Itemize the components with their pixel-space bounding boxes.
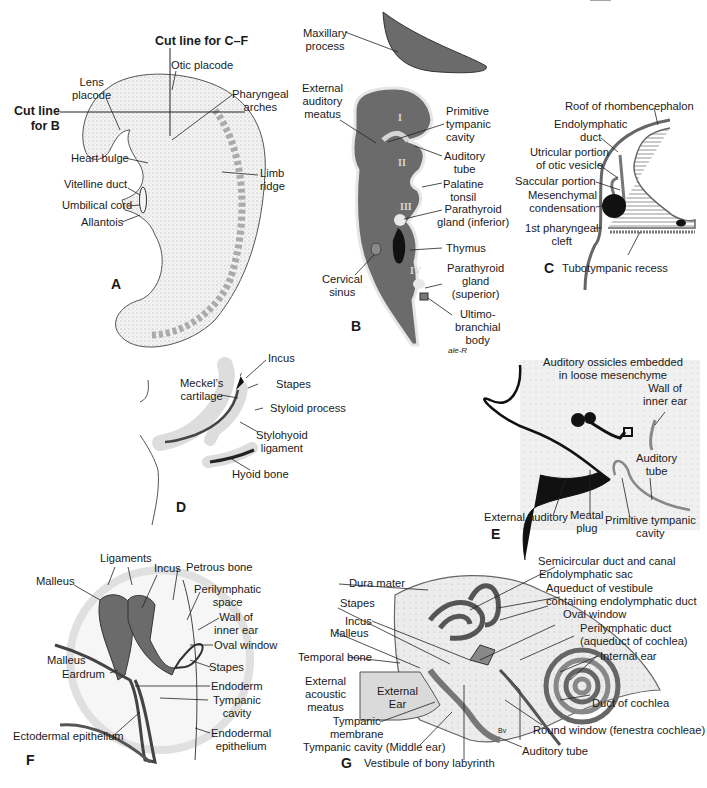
parathyroid-inferior-label: Parathyroid gland (inferior) (437, 203, 509, 229)
tympanic-membrane-label: Tympanic membrane (330, 715, 383, 741)
panel-d-letter: D (176, 499, 186, 515)
auditory-ossicles-label: Auditory ossicles embedded in loose mese… (543, 356, 683, 382)
cervical-sinus-label: Cervical sinus (322, 273, 362, 299)
ectodermal-epithelium-label: Ectodermal epithelium (13, 730, 124, 743)
cut-line-c-f-label: Cut line for C–F (155, 34, 248, 49)
arch-iv-numeral: IV (410, 265, 421, 276)
primitive-tympanic-cavity-label: Primitive tympanic cavity (446, 105, 491, 144)
meckels-cartilage-label: Meckel’s cartilage (180, 377, 223, 403)
duct-of-cochlea-label: Duct of cochlea (592, 697, 669, 710)
utricular-portion-label: Utricular portion of otic vesicle (530, 146, 609, 172)
endoderm-label: Endoderm (211, 680, 263, 693)
panel-c-letter: C (544, 260, 554, 276)
tubotympanic-recess-label: Tubotympanic recess (562, 262, 668, 275)
endolymphatic-duct-label: Endolymphatic duct (554, 118, 627, 144)
perilymphatic-space-label: Perilymphatic space (194, 583, 261, 609)
external-ear-label: External Ear (377, 685, 418, 711)
vestibule-bony-labyrinth-label: Vestibule of bony labyrinth (364, 757, 495, 770)
artist-signature: ale-R (448, 344, 467, 357)
auditory-tube-label-g: Auditory tube (522, 745, 588, 758)
aqueduct-vestibule-label: Aqueduct of vestibule containing endolym… (546, 582, 697, 608)
panel-b-letter: B (351, 318, 361, 334)
tympanic-cavity-label-g: Tympanic cavity (Middle ear) (303, 741, 445, 754)
malleus-bottom-label: Malleus (47, 654, 86, 667)
first-pharyngeal-cleft-label: 1st pharyngeal cleft (525, 222, 598, 248)
limb-ridge-label: Limb ridge (260, 167, 285, 193)
heart-bulge-label: Heart bulge (71, 152, 129, 165)
oval-window-label-f: Oval window (214, 639, 277, 652)
pharyngeal-arches-label: Pharyngeal arches (232, 88, 289, 114)
thymus-label: Thymus (446, 242, 486, 255)
panel-g-letter: G (341, 755, 352, 771)
allantois-label: Allantois (81, 216, 123, 229)
meatal-plug-label: Meatal plug (570, 509, 604, 535)
panel-a-letter: A (111, 276, 121, 292)
incus-label-d: Incus (268, 352, 295, 365)
stapes-label-f: Stapes (209, 661, 244, 674)
auditory-tube-label-e: Auditory tube (636, 452, 677, 478)
endolymphatic-sac-label: Endolymphatic sac (539, 568, 633, 581)
bv-label: Bv (498, 724, 506, 737)
stapes-label-d: Stapes (276, 378, 311, 391)
external-acoustic-meatus-label: External acoustic meatus (305, 675, 346, 714)
tympanic-cavity-label-f: Tympanic cavity (213, 694, 261, 720)
oval-window-label-g: Oval window (563, 608, 626, 621)
external-auditory-label: External auditory (484, 511, 568, 524)
auditory-tube-label: Auditory tube (444, 150, 485, 176)
stylohyoid-ligament-label: Stylohyoid ligament (256, 429, 308, 455)
maxillary-process-label: Maxillary process (303, 27, 347, 53)
external-auditory-meatus-label: External auditory meatus (302, 82, 343, 121)
saccular-portion-label: Saccular portion (515, 175, 596, 188)
malleus-label-g: Malleus (330, 627, 369, 640)
endodermal-epithelium-label: Endodermal epithelium (211, 727, 271, 753)
arch-i-numeral: I (398, 112, 402, 123)
temporal-bone-label: Temporal bone (298, 651, 372, 664)
panel-f-letter: F (26, 752, 35, 768)
internal-ear-label: Internal ear (600, 650, 657, 663)
umbilical-cord-label: Umbilical cord (62, 199, 132, 212)
roof-rhombencephalon-label: Roof of rhombencephalon (565, 100, 694, 113)
primitive-tympanic-cavity-label-e: Primitive tympanic cavity (605, 514, 696, 540)
perilymphatic-duct-label: Perilymphatic duct (aqueduct of cochlea) (580, 622, 688, 648)
hyoid-bone-label: Hyoid bone (232, 468, 289, 481)
vitelline-duct-label: Vitelline duct (64, 178, 127, 191)
mesenchymal-condensation-label: Mesenchymal condensation (528, 189, 597, 215)
cut-line-b-label: Cut line for B (14, 104, 60, 134)
ligaments-label: Ligaments (100, 552, 152, 565)
arch-ii-numeral: II (398, 157, 406, 168)
panel-e-letter: E (491, 526, 500, 542)
wall-inner-ear-label-f: Wall of inner ear (214, 611, 258, 637)
eardrum-label: Eardrum (62, 668, 105, 681)
arch-iii-numeral: III (400, 201, 412, 212)
stapes-label-g: Stapes (340, 597, 375, 610)
malleus-top-label: Malleus (36, 575, 75, 588)
dura-mater-label: Dura mater (349, 577, 405, 590)
palatine-tonsil-label: Palatine tonsil (443, 178, 483, 204)
petrous-bone-label: Petrous bone (186, 561, 253, 574)
ultimobranchial-body-label: Ultimo- branchial body (455, 308, 500, 347)
wall-inner-ear-label-e: Wall of inner ear (643, 382, 687, 408)
semicircular-duct-label: Semicircular duct and canal (538, 555, 675, 568)
styloid-process-label: Styloid process (270, 402, 346, 415)
lens-placode-label: Lens placode (72, 76, 111, 102)
parathyroid-superior-label: Parathyroid gland (superior) (447, 262, 504, 301)
otic-placode-label: Otic placode (171, 59, 233, 72)
round-window-label: Round window (fenestra cochleae) (533, 724, 705, 737)
incus-label-f: Incus (154, 562, 181, 575)
